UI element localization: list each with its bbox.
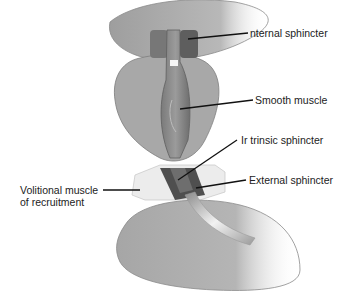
anatomy-illustration [0, 0, 355, 293]
label-smooth-muscle: Smooth muscle [255, 94, 327, 106]
label-internal-sphincter: nternal sphincter [250, 27, 328, 39]
label-external-sphincter: External sphincter [249, 174, 333, 186]
label-intrinsic-sphincter: Ir trinsic sphincter [241, 134, 323, 146]
label-of-recruitment: of recruitment [20, 196, 84, 208]
label-volitional-muscle: Volitional muscle [20, 184, 98, 196]
